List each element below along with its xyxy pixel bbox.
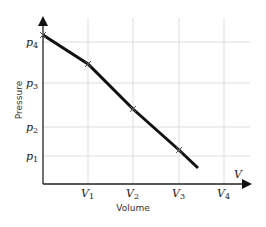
grid	[43, 18, 250, 184]
process-line	[43, 35, 198, 168]
y-axis-arrow-icon	[38, 16, 48, 26]
pv-chart: p4 p3 p2 p1 V1 V2 V3 V4 V Volume Pressur…	[0, 0, 266, 227]
x-axis-symbol: V	[234, 168, 243, 181]
tick-p3: p3	[26, 77, 38, 91]
tick-v2: V2	[126, 187, 139, 201]
tick-p2: p2	[26, 121, 38, 135]
tick-v3: V3	[172, 187, 185, 201]
x-axis-label: Volume	[116, 203, 150, 213]
tick-p1: p1	[26, 150, 38, 164]
tick-p4: p4	[26, 36, 38, 50]
tick-v1: V1	[81, 187, 94, 201]
x-axis-arrow-icon	[242, 179, 252, 189]
tick-v4: V4	[217, 187, 230, 201]
y-axis-label: Pressure	[14, 80, 24, 119]
